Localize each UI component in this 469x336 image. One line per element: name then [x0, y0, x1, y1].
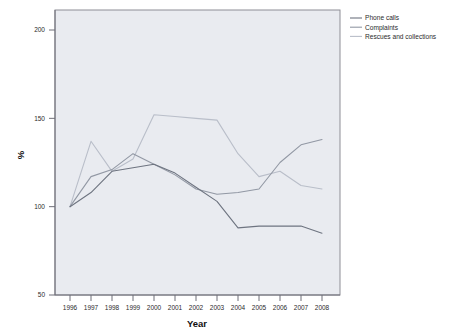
- legend-label-2: Rescues and collections: [365, 33, 437, 40]
- line-chart: 50100150200 1996199719981999200020012002…: [0, 0, 469, 336]
- y-axis-title: %: [15, 150, 26, 159]
- x-tick-label: 2004: [231, 304, 246, 311]
- x-tick-label: 2001: [168, 304, 183, 311]
- chart-container: 50100150200 1996199719981999200020012002…: [0, 0, 469, 336]
- x-tick-label: 2002: [189, 304, 204, 311]
- y-tick-label: 150: [34, 115, 45, 122]
- x-tick-label: 2000: [147, 304, 162, 311]
- x-tick-label: 1998: [105, 304, 120, 311]
- x-tick-label: 2007: [294, 304, 309, 311]
- x-axis-title: Year: [187, 318, 207, 329]
- legend-label-1: Complaints: [365, 24, 399, 32]
- y-tick-label: 50: [38, 291, 46, 298]
- y-tick-label: 100: [34, 203, 45, 210]
- x-tick-label: 1999: [126, 304, 141, 311]
- x-tick-label: 2006: [273, 304, 288, 311]
- x-tick-label: 2003: [210, 304, 225, 311]
- x-tick-label: 2005: [252, 304, 267, 311]
- y-tick-label: 200: [34, 26, 45, 33]
- x-tick-label: 1996: [63, 304, 78, 311]
- legend-label-0: Phone calls: [365, 14, 400, 21]
- x-tick-label: 1997: [84, 304, 99, 311]
- x-tick-label: 2008: [315, 304, 330, 311]
- plot-area-background: [55, 10, 340, 295]
